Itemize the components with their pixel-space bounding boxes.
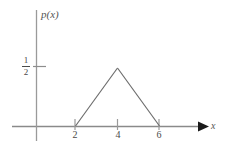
x-axis-arrowhead [198,122,209,132]
x-tick-label-6: 6 [152,129,166,140]
x-tick-label-4: 4 [111,129,125,140]
x-tick-label-2: 2 [68,129,82,140]
y-tick-label-one-half: 1 2 [19,56,33,77]
y-axis-label: p(x) [41,8,59,20]
x-axis-label: x [211,120,215,131]
probability-density-figure: p(x) x 1 2 2 4 6 [0,0,227,155]
fraction-denominator: 2 [19,67,33,77]
fraction-numerator: 1 [19,56,33,66]
density-rising-edge [76,68,118,126]
density-falling-edge [118,68,160,126]
